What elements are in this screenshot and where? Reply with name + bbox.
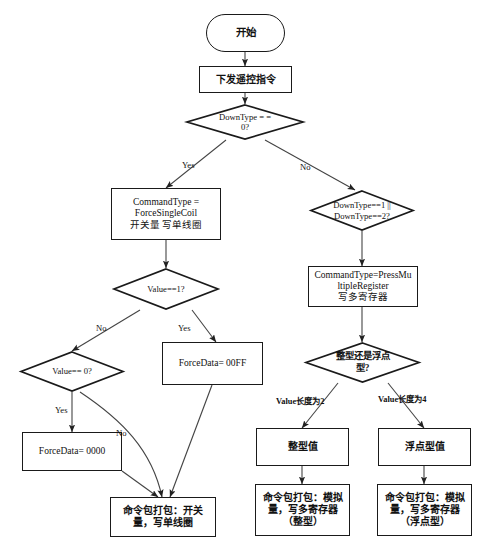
node-force-single-coil-label: CommandType = ForceSingleCoil 开关量 写单线圈 <box>112 197 220 231</box>
node-value-eq-one: Value==1? <box>113 268 219 310</box>
node-downtype-one-two-label: DownType==1 || DownType==2? <box>310 190 414 231</box>
edge-label-yes-downtype: Yes <box>182 160 195 170</box>
node-force-data-0000-label: ForceData= 0000 <box>23 446 121 457</box>
node-value-eq-zero-label: Value== 0? <box>20 351 124 392</box>
node-force-single-coil: CommandType = ForceSingleCoil 开关量 写单线圈 <box>111 188 221 240</box>
node-downtype-zero-label: DownType = = 0? <box>186 104 304 140</box>
node-start-label: 开始 <box>207 27 284 39</box>
edge-label-no-value-zero: No <box>116 428 127 438</box>
node-float-value: 浮点型值 <box>378 428 471 466</box>
node-value-eq-zero: Value== 0? <box>20 351 124 392</box>
node-send-command: 下发遥控指令 <box>199 66 292 93</box>
node-int-value: 整型值 <box>256 428 349 466</box>
node-press-multiple-register-label: CommandType=PressMu ltipleRegister 写多寄存器 <box>309 270 417 304</box>
edge-label-no-downtype: No <box>300 162 311 172</box>
edge-forcedata00ff-to-pack <box>170 385 212 497</box>
edge-label-yes-value-one: Yes <box>178 323 191 333</box>
node-int-or-float-label: 整型还是浮点 型? <box>305 342 420 383</box>
node-pack-register-int-label: 命令包打包：模拟 量，写多寄存器 （整型） <box>256 492 349 527</box>
node-press-multiple-register: CommandType=PressMu ltipleRegister 写多寄存器 <box>308 266 418 307</box>
node-force-data-00ff-label: ForceData= 00FF <box>163 358 262 369</box>
node-start: 开始 <box>206 14 285 52</box>
node-force-data-0000: ForceData= 0000 <box>22 432 122 471</box>
node-downtype-one-two: DownType==1 || DownType==2? <box>310 190 414 231</box>
node-force-data-00ff: ForceData= 00FF <box>162 342 263 385</box>
node-pack-coil-label: 命令包打包：开关 量，写单线圈 <box>111 505 215 529</box>
node-downtype-zero: DownType = = 0? <box>186 104 304 140</box>
edge-label-value-len-four: Value长度为4 <box>378 392 426 404</box>
edge-downtype0-yes-to-coil <box>166 140 226 188</box>
node-pack-coil: 命令包打包：开关 量，写单线圈 <box>110 497 216 537</box>
edge-intfloat-to-floatvalue <box>388 383 424 428</box>
node-float-value-label: 浮点型值 <box>379 441 470 453</box>
edge-label-yes-value-zero: Yes <box>55 405 68 415</box>
node-int-value-label: 整型值 <box>257 441 348 453</box>
node-pack-register-int: 命令包打包：模拟 量，写多寄存器 （整型） <box>255 484 350 536</box>
edge-forcedata0000-to-pack <box>122 471 158 497</box>
flowchart-canvas: 开始 下发遥控指令 DownType = = 0? Yes No Command… <box>0 0 501 553</box>
edge-label-value-len-two: Value长度为2 <box>276 394 324 406</box>
edge-value1-yes-to-forcedata00ff <box>192 310 216 342</box>
node-send-command-label: 下发遥控指令 <box>200 74 291 86</box>
edge-label-no-value-one: No <box>96 323 107 333</box>
node-int-or-float: 整型还是浮点 型? <box>305 342 420 383</box>
node-value-eq-one-label: Value==1? <box>113 268 219 310</box>
node-pack-register-float-label: 命令包打包：模拟 量，写多寄存器 （浮点型） <box>378 492 471 527</box>
node-pack-register-float: 命令包打包：模拟 量，写多寄存器 （浮点型） <box>377 484 472 536</box>
